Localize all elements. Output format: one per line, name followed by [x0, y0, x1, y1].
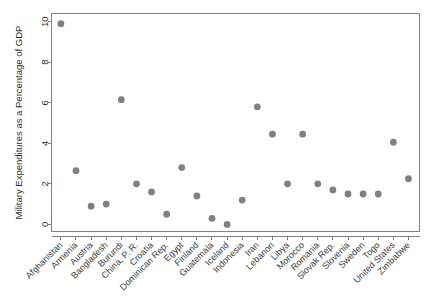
data-point	[405, 175, 412, 182]
data-point	[148, 189, 155, 196]
data-point	[178, 164, 185, 171]
data-point	[360, 191, 367, 198]
y-axis-tick-label: 4	[39, 141, 50, 146]
plot-frame	[52, 14, 420, 232]
y-axis-tick-label: 0	[39, 222, 50, 227]
data-point	[224, 221, 231, 228]
data-point	[314, 180, 321, 187]
data-point	[345, 191, 352, 198]
data-point	[88, 203, 95, 210]
chart-figure: 0246810Military Expenditures as a Percen…	[0, 0, 431, 308]
data-point	[254, 103, 261, 110]
data-point	[163, 211, 170, 218]
data-point	[269, 131, 276, 138]
y-axis-title: Military Expenditures as a Percentage of…	[13, 26, 24, 220]
y-axis-tick-label: 10	[39, 16, 50, 27]
data-point	[73, 167, 80, 174]
data-point	[239, 197, 246, 204]
data-point	[133, 180, 140, 187]
data-point	[330, 187, 337, 194]
data-point	[118, 96, 125, 103]
data-point	[193, 193, 200, 200]
data-point	[390, 139, 397, 146]
y-axis-tick-label: 6	[39, 100, 50, 105]
data-point	[299, 131, 306, 138]
y-axis-tick-label: 2	[39, 181, 50, 186]
data-point	[209, 215, 216, 222]
y-axis-tick-label: 8	[39, 60, 50, 65]
scatter-plot: 0246810Military Expenditures as a Percen…	[0, 0, 431, 308]
data-point	[284, 180, 291, 187]
data-point	[103, 201, 110, 208]
data-point	[57, 20, 64, 27]
data-point	[375, 191, 382, 198]
